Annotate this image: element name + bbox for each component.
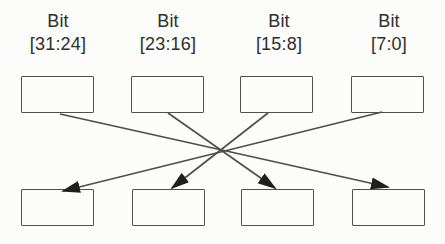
bit-label-7-0-range: [7:0]	[334, 33, 444, 56]
arrow-top1-to-bottom4	[60, 114, 388, 187]
top-box-4	[351, 76, 424, 113]
top-box-3	[240, 76, 313, 113]
byte-swap-diagram: Bit [31:24] Bit [23:16] Bit [15:8] Bit […	[0, 0, 445, 244]
top-box-1	[21, 76, 94, 113]
bit-label-15-8-word: Bit	[224, 10, 334, 33]
bottom-box-3	[241, 189, 314, 226]
bit-label-31-24-word: Bit	[3, 10, 113, 33]
bottom-box-2	[132, 189, 205, 226]
arrow-top4-to-bottom1	[63, 112, 382, 191]
bit-label-15-8-range: [15:8]	[224, 33, 334, 56]
arrow-top3-to-bottom2	[172, 113, 268, 188]
bit-label-15-8: Bit [15:8]	[224, 10, 334, 56]
bit-label-7-0-word: Bit	[334, 10, 444, 33]
bit-label-31-24-range: [31:24]	[3, 33, 113, 56]
bit-label-31-24: Bit [31:24]	[3, 10, 113, 56]
bit-label-23-16-word: Bit	[113, 10, 223, 33]
bit-label-23-16-range: [23:16]	[113, 33, 223, 56]
arrow-top2-to-bottom3	[168, 113, 275, 188]
bottom-box-1	[21, 189, 94, 226]
bit-label-23-16: Bit [23:16]	[113, 10, 223, 56]
bit-label-7-0: Bit [7:0]	[334, 10, 444, 56]
bottom-box-4	[352, 189, 425, 226]
top-box-2	[131, 76, 204, 113]
